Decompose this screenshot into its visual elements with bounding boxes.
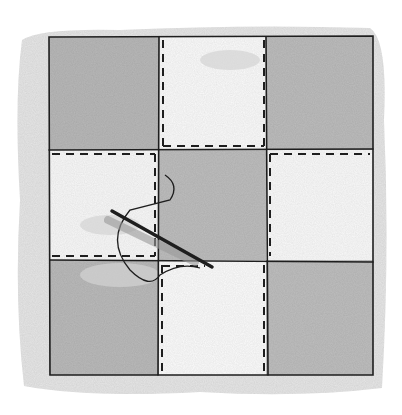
patch-light-middle-left [49,150,159,260]
patch-dark-top-right [266,37,373,150]
patch-dark-center [159,150,266,260]
quilt-illustration [0,0,402,415]
patch-light-bottom-center [159,260,266,375]
patch-dark-top-left [49,37,159,150]
patch-light-middle-right [266,150,373,260]
patch-dark-bottom-right [266,260,373,375]
patch-grid [49,37,373,375]
